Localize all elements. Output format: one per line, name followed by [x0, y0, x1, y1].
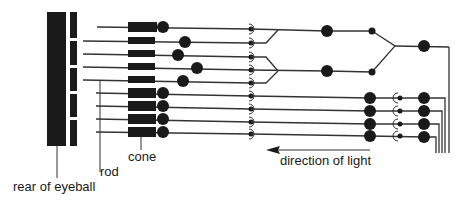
rear-of-eyeball-block — [47, 12, 77, 146]
rod-label: rod — [100, 165, 119, 178]
rod-cone-bodies — [128, 22, 157, 137]
cone-label: cone — [128, 150, 156, 163]
bipolar-cells — [321, 25, 376, 142]
ganglion-cells — [418, 40, 430, 143]
direction-of-light-label: direction of light — [280, 154, 371, 167]
retina-diagram: cone rod rear of eyeball direction of li… — [0, 0, 461, 204]
retina-diagram-svg — [0, 0, 461, 204]
rear-of-eyeball-label: rear of eyeball — [13, 180, 95, 193]
ganglion-terminals — [393, 93, 403, 141]
